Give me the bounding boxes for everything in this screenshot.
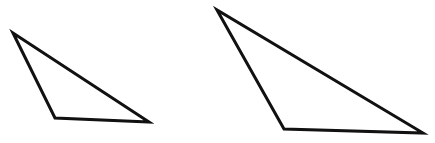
diagram-background xyxy=(0,0,435,143)
figure-canvas xyxy=(0,0,435,143)
triangles-diagram xyxy=(0,0,435,143)
